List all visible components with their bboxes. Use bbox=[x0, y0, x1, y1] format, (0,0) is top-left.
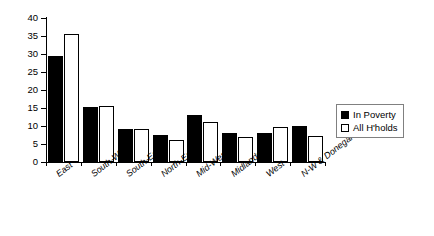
bar-group bbox=[46, 18, 81, 162]
x-axis-tick bbox=[46, 162, 47, 166]
y-axis-tick-label: 40 bbox=[14, 13, 38, 23]
y-axis-tick-label-text: 40 bbox=[16, 13, 38, 23]
legend-swatch-in-poverty-icon bbox=[341, 111, 349, 119]
y-axis-tick-label-text: 35 bbox=[16, 31, 38, 41]
bar-chart: 0510152025303540 EastSouth-WestSouth-Eas… bbox=[0, 0, 434, 236]
bar-all-households bbox=[273, 127, 288, 162]
bar-in-poverty bbox=[48, 56, 63, 162]
y-axis-tick-label: 0 bbox=[14, 157, 38, 167]
bar-group bbox=[255, 18, 290, 162]
x-axis-tick bbox=[81, 162, 82, 166]
bar-group bbox=[116, 18, 151, 162]
legend-item-in-poverty: In Poverty bbox=[341, 108, 398, 121]
y-axis-tick-label: 20 bbox=[14, 85, 38, 95]
plot-area bbox=[46, 18, 325, 162]
y-axis-tick-label: 10 bbox=[14, 121, 38, 131]
bar-group bbox=[220, 18, 255, 162]
y-axis-tick-label: 5 bbox=[14, 139, 38, 149]
bar-group bbox=[186, 18, 221, 162]
y-axis-tick-label: 35 bbox=[14, 31, 38, 41]
y-axis-tick-label-text: 5 bbox=[16, 139, 38, 149]
y-axis-tick-label-text: 25 bbox=[16, 67, 38, 77]
y-axis-tick-label-text: 30 bbox=[16, 49, 38, 59]
y-axis-tick-label-text: 0 bbox=[16, 157, 38, 167]
legend-label-in-poverty: In Poverty bbox=[353, 110, 396, 120]
bar-group bbox=[81, 18, 116, 162]
bar-group bbox=[151, 18, 186, 162]
legend-label-all-households: All H'holds bbox=[353, 123, 398, 133]
bar-in-poverty bbox=[83, 107, 98, 162]
y-axis-tick-label-text: 15 bbox=[16, 103, 38, 113]
y-axis-tick-label-text: 20 bbox=[16, 85, 38, 95]
x-axis-tick bbox=[290, 162, 291, 166]
y-axis-tick-label-text: 10 bbox=[16, 121, 38, 131]
bar-all-households bbox=[64, 34, 79, 162]
y-axis-tick-label: 30 bbox=[14, 49, 38, 59]
bar-in-poverty bbox=[292, 126, 307, 162]
chart-legend: In Poverty All H'holds bbox=[336, 104, 404, 138]
legend-item-all-households: All H'holds bbox=[341, 121, 398, 134]
y-axis-tick-label: 15 bbox=[14, 103, 38, 113]
bar-group bbox=[290, 18, 325, 162]
y-axis-tick-label: 25 bbox=[14, 67, 38, 77]
legend-swatch-all-households-icon bbox=[341, 124, 349, 132]
